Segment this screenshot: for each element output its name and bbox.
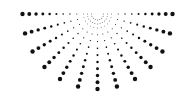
- arc-dot: [94, 23, 95, 24]
- ray-dot: [96, 54, 98, 56]
- radial-dots-graphic: [0, 0, 191, 95]
- arc-dot: [97, 24, 98, 25]
- arc-dot: [92, 16, 93, 17]
- ray-dot: [69, 60, 72, 63]
- ray-dot: [109, 21, 110, 22]
- ray-dot: [138, 13, 140, 15]
- ray-dot: [97, 28, 98, 29]
- ray-dot: [80, 72, 83, 75]
- ray-dot: [69, 13, 70, 14]
- arc-dot: [97, 20, 98, 21]
- arc-dot: [87, 14, 88, 15]
- ray-dot: [61, 34, 63, 36]
- arc-dot: [87, 16, 88, 17]
- ray-dot: [123, 20, 124, 21]
- ray-dot: [123, 60, 126, 63]
- ray-dot: [62, 47, 64, 49]
- ray-dot: [101, 27, 102, 28]
- ray-dot: [133, 77, 137, 81]
- ray-dot: [87, 31, 88, 32]
- ray-dot: [168, 31, 172, 35]
- ray-dot: [170, 12, 174, 16]
- ray-dot: [52, 56, 55, 59]
- arc-dot: [95, 19, 96, 20]
- ray-dot: [20, 12, 24, 16]
- ray-dot: [73, 27, 74, 28]
- ray-dot: [42, 65, 46, 69]
- ray-dot: [90, 40, 91, 41]
- arc-dot: [100, 23, 101, 24]
- ray-dot: [96, 80, 100, 84]
- ray-dot: [113, 78, 117, 82]
- ray-dot: [48, 13, 50, 15]
- ray-dot: [65, 66, 68, 69]
- ray-dot: [111, 17, 112, 18]
- ray-dot: [120, 54, 122, 56]
- ray-dot: [80, 43, 82, 45]
- ray-dot: [41, 13, 44, 16]
- ray-dot: [23, 31, 27, 35]
- ray-dot: [43, 43, 46, 46]
- arc-dot: [104, 21, 105, 22]
- ray-dot: [102, 34, 103, 35]
- ray-dot: [161, 30, 165, 34]
- ray-dot: [155, 46, 159, 50]
- ray-dot: [84, 17, 85, 18]
- arc-dot: [107, 16, 108, 17]
- ray-dot: [139, 56, 142, 59]
- ray-dot: [117, 19, 118, 20]
- ray-dot: [124, 13, 125, 14]
- ray-dot: [57, 24, 59, 26]
- ray-dot: [126, 30, 128, 32]
- ray-dot: [30, 49, 34, 53]
- ray-dot: [107, 31, 108, 32]
- ray-dot: [110, 65, 113, 68]
- ray-dot: [97, 48, 99, 50]
- ray-dot: [77, 33, 78, 34]
- ray-dot: [96, 61, 98, 63]
- ray-dot: [135, 51, 138, 54]
- arc-dot: [91, 14, 92, 15]
- ray-dot: [84, 59, 86, 61]
- ray-dot: [121, 37, 123, 39]
- ray-dot: [144, 13, 146, 15]
- ray-dot: [58, 77, 62, 81]
- ray-dot: [149, 43, 152, 46]
- ray-dot: [107, 53, 109, 55]
- ray-dot: [109, 59, 111, 61]
- ray-dot: [143, 40, 146, 43]
- ray-dot: [76, 49, 78, 51]
- ray-dot: [27, 12, 31, 16]
- ray-dot: [138, 37, 140, 39]
- ray-dot: [61, 71, 65, 75]
- ray-dot: [160, 49, 164, 53]
- ray-dot: [155, 28, 158, 31]
- ray-dot: [96, 74, 99, 77]
- ray-dot: [106, 46, 108, 48]
- arc-dot: [106, 19, 107, 20]
- ray-dot: [36, 28, 39, 31]
- ray-dot: [83, 37, 84, 38]
- ray-dot: [72, 54, 74, 56]
- ray-dot: [92, 34, 93, 35]
- ray-dot: [95, 87, 99, 91]
- ray-dot: [118, 14, 119, 15]
- arc-dot: [107, 14, 108, 15]
- ray-dot: [157, 12, 160, 15]
- ray-dot: [86, 53, 88, 55]
- ray-dot: [126, 42, 128, 44]
- ray-dot: [85, 21, 86, 22]
- ray-dot: [34, 12, 37, 15]
- ray-dot: [130, 22, 132, 24]
- ray-dot: [97, 34, 98, 35]
- ray-dot: [88, 46, 90, 48]
- ray-dot: [62, 13, 64, 15]
- ray-dot: [83, 14, 84, 15]
- ray-dot: [90, 26, 91, 27]
- ray-dot: [67, 42, 69, 44]
- ray-dot: [43, 27, 46, 30]
- arc-dot: [103, 16, 104, 17]
- ray-dot: [114, 43, 116, 45]
- ray-dot: [151, 13, 154, 16]
- ray-dot: [76, 84, 80, 88]
